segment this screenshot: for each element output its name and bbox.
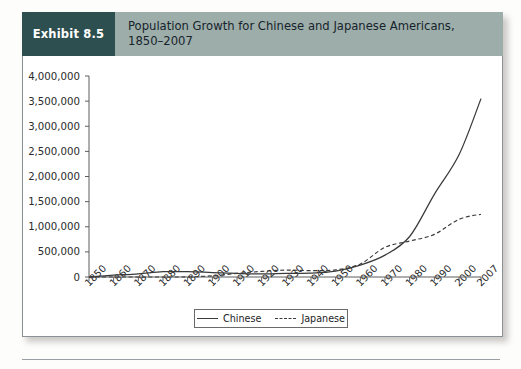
x-axis-tick-label: 1910	[231, 263, 257, 289]
legend-label-japanese: Japanese	[301, 313, 345, 324]
chart-plot-area: 4,000,0003,500,0003,000,0002,500,0002,00…	[22, 56, 503, 337]
line-chart: 4,000,0003,500,0003,000,0002,500,0002,00…	[22, 56, 503, 337]
x-axis-tick-label: 1970	[379, 263, 405, 289]
x-axis-tick-label: 1980	[403, 263, 429, 289]
footer-rule	[22, 359, 500, 360]
x-axis-tick-label: 2007	[475, 263, 501, 289]
x-axis-tick-label: 1890	[181, 263, 207, 289]
x-axis-tick-label: 1950	[329, 263, 355, 289]
y-axis-tick-label: 1,500,000	[28, 196, 80, 207]
legend-swatch-solid-icon	[197, 318, 218, 319]
y-axis-tick-label: 0	[74, 272, 80, 283]
exhibit-figure: Exhibit 8.5 Population Growth for Chines…	[0, 0, 521, 369]
chart-legend: Chinese Japanese	[194, 309, 348, 328]
exhibit-title: Population Growth for Chinese and Japane…	[115, 12, 503, 56]
y-axis-tick-marks	[85, 76, 89, 277]
x-axis-tick-label: 1930	[280, 263, 306, 289]
exhibit-header: Exhibit 8.5 Population Growth for Chines…	[22, 12, 503, 56]
legend-swatch-dashed-icon	[275, 318, 296, 319]
x-axis-tick-label: 1870	[132, 263, 158, 289]
legend-item-chinese: Chinese	[197, 313, 261, 324]
x-axis-tick-labels: 1850186018701880189019001910192019301940…	[83, 263, 501, 289]
y-axis-tick-labels: 4,000,0003,500,0003,000,0002,500,0002,00…	[28, 71, 80, 283]
x-axis-tick-label: 1880	[157, 263, 183, 289]
y-axis-tick-label: 2,000,000	[28, 171, 80, 182]
legend-label-chinese: Chinese	[223, 313, 261, 324]
x-axis-tick-label: 1940	[305, 263, 331, 289]
y-axis-tick-label: 3,000,000	[28, 121, 80, 132]
legend-item-japanese: Japanese	[275, 313, 345, 324]
series-line-chinese	[89, 99, 481, 277]
x-axis-tick-label: 1990	[428, 263, 454, 289]
exhibit-tag: Exhibit 8.5	[22, 12, 115, 56]
y-axis-tick-label: 3,500,000	[28, 96, 80, 107]
x-axis-tick-label: 1920	[255, 263, 281, 289]
y-axis-tick-label: 2,500,000	[28, 146, 80, 157]
x-axis-tick-label: 2000	[453, 263, 479, 289]
y-axis-tick-label: 1,000,000	[28, 221, 80, 232]
y-axis-tick-label: 500,000	[38, 246, 80, 257]
y-axis-tick-label: 4,000,000	[28, 71, 80, 82]
